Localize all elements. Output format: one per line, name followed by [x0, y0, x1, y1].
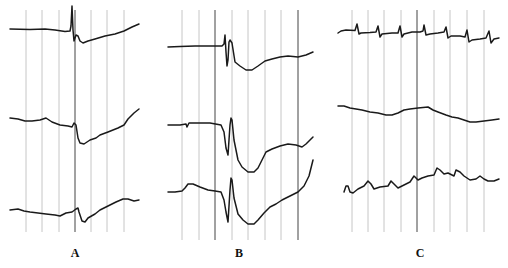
waveform-trace [344, 168, 499, 193]
waveform-trace [338, 24, 499, 43]
panel-label-a: A [71, 246, 80, 261]
waveform-trace [168, 35, 313, 70]
panel-c [338, 10, 499, 232]
waveform-trace [168, 118, 313, 172]
panel-label-b: B [235, 246, 243, 261]
waveform-figure [0, 0, 508, 268]
panel-a [10, 6, 139, 232]
panel-b-traces [168, 35, 313, 224]
panel-c-gridlines [352, 10, 484, 232]
panel-label-c: C [416, 246, 425, 261]
panel-c-traces [338, 24, 499, 193]
waveform-trace [338, 106, 499, 122]
panel-b [168, 10, 313, 240]
panel-a-gridlines [26, 10, 124, 232]
panel-b-gridlines [182, 10, 298, 240]
waveform-trace [168, 160, 313, 224]
